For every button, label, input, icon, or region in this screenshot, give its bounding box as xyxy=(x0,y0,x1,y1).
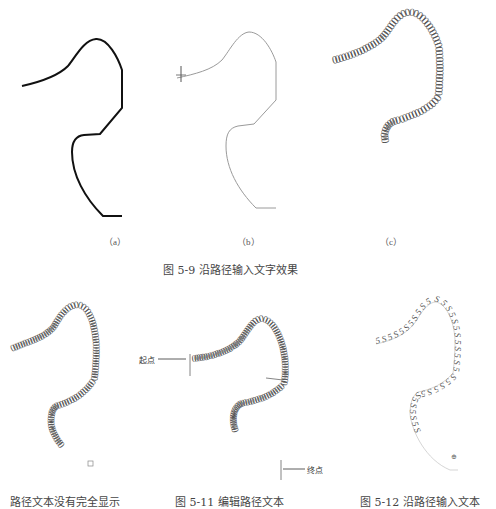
svg-text:000000000000000000000000000000: 0000000000000000000000000000000000000000… xyxy=(8,299,102,450)
panel-a-label: （a） xyxy=(104,235,126,248)
figure-5-9-caption: 图 5-9 沿路径输入文字效果 xyxy=(163,261,298,277)
end-point-label: 终点 xyxy=(307,464,323,475)
svg-text:000000000000000000000000000000: 0000000000000000000000000000000000000000… xyxy=(191,313,291,434)
fig-5-12-text-path: 5S5S5S5S5S5S5S5S5S5S5S5S5S5S5S5S5S5S xyxy=(374,294,463,470)
fig-5-11-text-path: 0000000000000000000000000000000000000000… xyxy=(158,313,305,480)
panel-a-path xyxy=(22,39,122,216)
overflow-marker-icon[interactable]: ⊕ xyxy=(451,453,457,461)
figure-5-10-caption: 路径文本没有完全显示 xyxy=(10,493,120,509)
start-point-label: 起点 xyxy=(139,354,155,365)
panel-c-label: （c） xyxy=(380,235,402,248)
svg-text:5S5S5S5S5S5S5S5S5S5S5S5S5S5S5S: 5S5S5S5S5S5S5S5S5S5S5S5S5S5S5S5S5S5S xyxy=(374,294,463,437)
overflow-indicator-icon[interactable] xyxy=(88,461,93,466)
figure-5-11-caption: 图 5-11 编辑路径文本 xyxy=(175,493,284,509)
svg-text:000000000000000000000000000000: 0000000000000000000000000000000000000000… xyxy=(331,5,447,144)
fig-5-10-text-path: 0000000000000000000000000000000000000000… xyxy=(8,299,102,466)
figure-5-12-caption: 图 5-12 沿路径输入文本 xyxy=(360,493,480,509)
panel-b-path xyxy=(176,32,276,208)
panel-c-text-path: 0000000000000000000000000000000000000000… xyxy=(331,5,447,144)
panel-b-label: （b） xyxy=(237,235,260,248)
